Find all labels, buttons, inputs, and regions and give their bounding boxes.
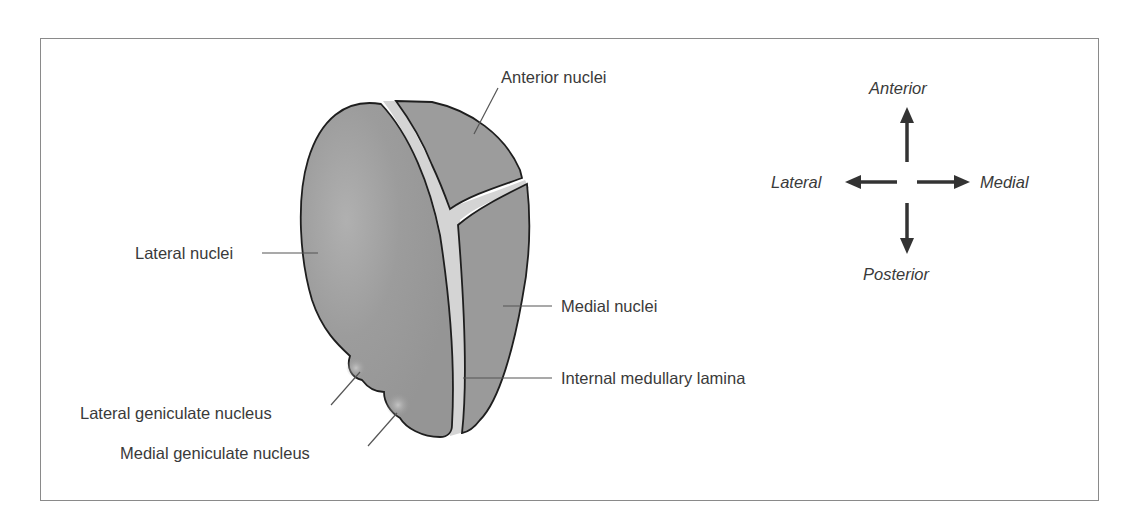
label-internal-medullary-lamina: Internal medullary lamina [561, 370, 745, 387]
leader-mgn [368, 413, 397, 446]
arrow-right-icon [954, 175, 970, 189]
direction-anterior: Anterior [869, 80, 927, 97]
label-medial-geniculate-nucleus: Medial geniculate nucleus [120, 445, 310, 462]
medial-nuclei-shape [458, 184, 529, 433]
leader-lgn [331, 372, 360, 405]
label-lateral-geniculate-nucleus: Lateral geniculate nucleus [80, 405, 272, 422]
arrow-up-icon [900, 107, 914, 123]
direction-posterior: Posterior [863, 266, 929, 283]
direction-lateral: Lateral [771, 174, 821, 191]
orientation-compass [845, 107, 970, 254]
label-medial-nuclei: Medial nuclei [561, 298, 657, 315]
direction-medial: Medial [980, 174, 1029, 191]
label-anterior-nuclei: Anterior nuclei [501, 69, 606, 86]
label-lateral-nuclei: Lateral nuclei [135, 245, 233, 262]
arrow-down-icon [900, 238, 914, 254]
arrow-left-icon [845, 175, 861, 189]
